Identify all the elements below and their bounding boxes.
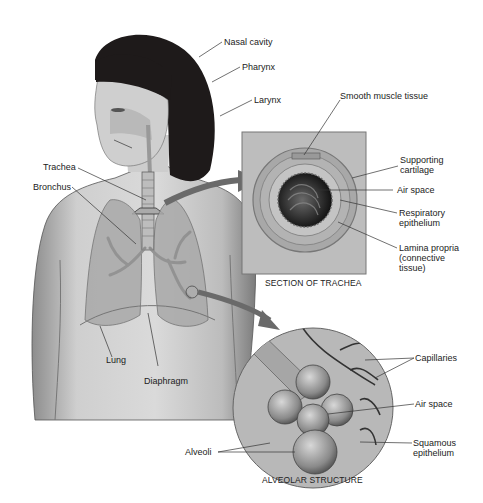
label-nasal-cavity: Nasal cavity bbox=[224, 37, 273, 47]
label-supporting-cartilage-line1: Supporting bbox=[400, 155, 444, 165]
alveolar-inset bbox=[233, 318, 393, 488]
caption-section-of-trachea: SECTION OF TRACHEA bbox=[265, 278, 362, 288]
label-lung: Lung bbox=[106, 355, 126, 365]
label-lamina-propria-line1: Lamina propria bbox=[399, 243, 459, 253]
label-alveoli: Alveoli bbox=[185, 447, 212, 457]
label-respiratory-epithelium-line1: Respiratory bbox=[399, 208, 445, 218]
label-bronchus: Bronchus bbox=[33, 182, 71, 192]
label-diaphragm: Diaphragm bbox=[144, 376, 188, 386]
label-lamina-propria-line2: (connective bbox=[399, 253, 445, 263]
label-respiratory-epithelium-line2: epithelium bbox=[399, 218, 440, 228]
label-air-space-trachea: Air space bbox=[397, 185, 435, 195]
trachea-section-inset bbox=[242, 132, 366, 274]
label-trachea: Trachea bbox=[43, 162, 76, 172]
caption-alveolar-structure: ALVEOLAR STRUCTURE bbox=[262, 475, 363, 485]
label-larynx: Larynx bbox=[254, 95, 281, 105]
label-squamous-epithelium-line2: epithelium bbox=[413, 448, 454, 458]
label-supporting-cartilage-line2: cartilage bbox=[400, 165, 434, 175]
label-pharynx: Pharynx bbox=[242, 62, 275, 72]
label-lamina-propria-line3: tissue) bbox=[399, 263, 426, 273]
respiratory-system-diagram: Nasal cavity Pharynx Larynx Trachea Bron… bbox=[0, 0, 483, 503]
label-smooth-muscle-tissue: Smooth muscle tissue bbox=[340, 91, 428, 101]
label-squamous-epithelium-line1: Squamous bbox=[413, 438, 456, 448]
label-air-space-alveolar: Air space bbox=[415, 399, 453, 409]
label-capillaries: Capillaries bbox=[415, 353, 457, 363]
